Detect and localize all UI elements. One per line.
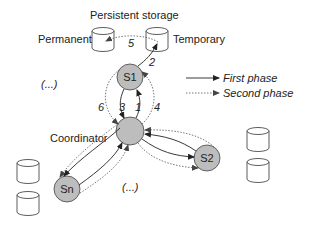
node-s2-label: S2 [200,152,213,164]
sn-storage-cylinder-2 [17,192,39,216]
permanent-label: Permanent [38,33,92,45]
two-phase-commit-diagram: Persistent storage Permanent Temporary 5… [0,0,314,227]
node-sn: Sn [54,176,80,202]
node-s1-label: S1 [123,71,136,83]
arrow-s2-to-coordinator-dashed [145,130,214,147]
arrow-step-4 [142,72,154,124]
permanent-storage-cylinder [92,28,114,52]
sn-storage-cylinder-1 [17,160,39,184]
ellipsis-top: (...) [41,78,58,90]
s2-storage-cylinder-2 [247,159,269,183]
node-coordinator [116,117,144,145]
temporary-storage-cylinder [146,28,168,52]
node-sn-label: Sn [60,183,73,195]
legend-second-phase-label: Second phase [223,87,293,99]
step-label-3: 3 [119,101,126,113]
persistent-storage-title: Persistent storage [90,9,179,21]
temporary-label: Temporary [173,33,225,45]
ellipsis-bottom: (...) [122,181,139,193]
step-label-4: 4 [154,101,160,113]
step-label-5: 5 [128,37,135,49]
step-label-1: 1 [135,101,141,113]
arrow-s2-to-coordinator-solid [145,134,196,151]
node-s1: S1 [117,64,143,90]
step-label-6: 6 [98,101,105,113]
node-s2: S2 [194,145,220,171]
legend-first-phase-label: First phase [223,72,277,84]
arrow-sn-to-coordinator-dashed [80,145,128,193]
legend: First phase Second phase [186,72,293,99]
s2-storage-cylinder-1 [247,128,269,152]
step-label-2: 2 [148,56,155,68]
